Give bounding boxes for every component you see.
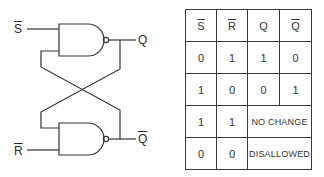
table-row: 0 1 1 0	[186, 42, 312, 74]
cell: 1	[248, 42, 280, 74]
cell: 0	[217, 138, 248, 170]
cell: 1	[217, 42, 248, 74]
s-bar-label: S	[14, 23, 22, 35]
r-bar-label: R	[14, 145, 23, 157]
truth-table: S R Q Q 0 1 1 0 1 0 0 1 1 1 NO CHANGE 0 …	[185, 9, 312, 170]
header-s-bar: S	[186, 10, 217, 42]
no-change-cell: NO CHANGE	[248, 106, 312, 138]
feedback-bottom	[41, 40, 120, 128]
cell: 0	[280, 42, 312, 74]
disallowed-cell: DISALLOWED	[248, 138, 312, 170]
cell: 1	[280, 74, 312, 106]
nand-gate-top	[59, 24, 104, 56]
table-row: 0 0 DISALLOWED	[186, 138, 312, 170]
cell: 1	[186, 74, 217, 106]
table-header-row: S R Q Q	[186, 10, 312, 42]
table-row: 1 0 0 1	[186, 74, 312, 106]
nand-gate-bottom	[59, 123, 104, 155]
table-row: 1 1 NO CHANGE	[186, 106, 312, 138]
cell: 0	[186, 138, 217, 170]
q-bar-output-label: Q	[138, 133, 147, 145]
cell: 1	[217, 106, 248, 138]
cell: 0	[248, 74, 280, 106]
cell: 0	[217, 74, 248, 106]
feedback-top	[41, 51, 120, 139]
header-r-bar: R	[217, 10, 248, 42]
header-q: Q	[248, 10, 280, 42]
header-q-bar: Q	[280, 10, 312, 42]
sr-latch-circuit	[0, 0, 180, 177]
q-output-label: Q	[138, 34, 147, 46]
cell: 0	[186, 42, 217, 74]
cell: 1	[186, 106, 217, 138]
